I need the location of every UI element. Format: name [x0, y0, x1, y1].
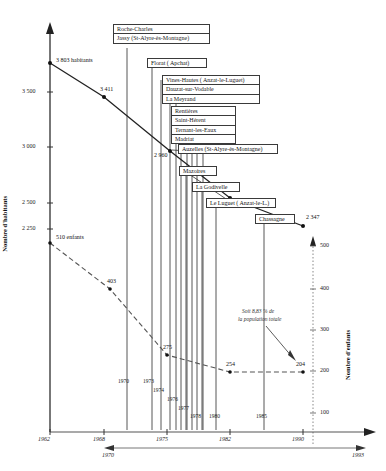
callout-auzelles[interactable]: Auzelles (St-Alyre-ès-Montagne) — [178, 144, 278, 154]
x-tick-1975: 1975 — [156, 436, 168, 442]
x-tick-1990: 1990 — [292, 436, 304, 442]
x-tick-1968: 1968 — [93, 436, 105, 442]
event-year-1976: 1976 — [167, 397, 178, 403]
point-label-habitants-1975: 2 960 — [154, 152, 168, 158]
event-year-1977: 1977 — [178, 406, 189, 412]
annotation-leader — [266, 326, 296, 361]
y-right-tick-200: 200 — [320, 367, 329, 373]
point-label-enfants-1982: 254 — [226, 361, 235, 367]
x2-start-1970: 1970 — [102, 452, 114, 458]
y-axis-right — [310, 236, 316, 445]
x-tick-1982: 1982 — [219, 436, 231, 442]
x-axis-primary — [50, 428, 376, 436]
point-label-enfants-1975: 275 — [163, 344, 172, 350]
x2-end-1993: 1993 — [352, 452, 364, 458]
y-right-tick-300: 300 — [320, 326, 329, 332]
annotation-line2: la population totale — [238, 316, 281, 323]
x-axis-secondary — [104, 445, 366, 451]
y-tick-3000: 3 000 — [22, 143, 36, 149]
point-label-habitants-1968: 3 411 — [100, 86, 113, 92]
y-tick-2500: 2 500 — [22, 199, 36, 205]
event-year-1974: 1974 — [153, 388, 164, 394]
callout-saint-herent[interactable]: Saint-Hérent — [172, 116, 235, 125]
callout-jassy[interactable]: Jassy (St-Alyre-ès-Montagne) — [114, 34, 209, 42]
callout-chassagne[interactable]: Chassagne — [255, 214, 295, 224]
event-year-1985: 1985 — [256, 414, 267, 420]
callout-dauzat-sur-vodable[interactable]: Dauzat-sur-Vodable — [163, 85, 259, 94]
y-axis-left — [46, 22, 54, 432]
y-right-tick-500: 500 — [320, 242, 329, 248]
event-year-1973: 1973 — [143, 379, 154, 385]
point-label-enfants-1962: 510 enfants — [56, 234, 84, 240]
callout-group-roche-jassy[interactable]: Roche-Charles Jassy (St-Alyre-ès-Montagn… — [113, 24, 210, 44]
callout-vines-hautes[interactable]: Vines-Hautes ( Anzat-le-Luguet) — [163, 76, 259, 85]
callout-la-godivelle[interactable]: La Godivelle — [192, 182, 240, 192]
chart-canvas: Nombre d'habitants 3 500 3 000 2 500 2 2… — [0, 0, 386, 471]
callout-florat[interactable]: Florat ( Apchat) — [147, 58, 207, 68]
y-tick-2250: 2 250 — [22, 225, 36, 231]
point-label-enfants-1970: 403 — [107, 278, 116, 284]
callout-ternant-les-eaux[interactable]: Ternant-les-Eaux — [172, 126, 235, 135]
callout-le-luguet[interactable]: Le Luguet ( Anzat-le-L.) — [206, 198, 276, 208]
callout-group-vines-dauzat-meyrand[interactable]: Vines-Hautes ( Anzat-le-Luguet) Dauzat-s… — [162, 75, 260, 104]
event-year-1980: 1980 — [209, 414, 220, 420]
point-label-enfants-1990: 204 — [296, 361, 305, 367]
y-right-tick-100: 100 — [320, 409, 329, 415]
event-year-1970: 1970 — [118, 379, 129, 385]
callout-madriat[interactable]: Madriat — [172, 135, 235, 143]
callout-group-rentieres-madriat[interactable]: Rentières Saint-Hérent Ternant-les-Eaux … — [171, 106, 236, 144]
x-tick-1962: 1962 — [38, 436, 50, 442]
event-year-1978: 1978 — [190, 414, 201, 420]
point-label-habitants-1990: 2 347 — [306, 214, 320, 220]
point-label-habitants-1962: 3 803 habitants — [56, 57, 93, 63]
y-right-tick-400: 400 — [320, 285, 329, 291]
callout-rentieres[interactable]: Rentières — [172, 107, 235, 116]
y-tick-3500: 3 500 — [22, 88, 36, 94]
callout-roche-charles[interactable]: Roche-Charles — [114, 25, 209, 34]
y-axis-left-title: Nombre d'habitants — [2, 196, 9, 252]
y-axis-right-title: Nombre d'enfants — [345, 330, 352, 380]
callout-mazoires[interactable]: Mazoires — [179, 166, 217, 176]
callout-la-meyrand[interactable]: La Meyrand — [163, 95, 259, 103]
annotation-line1: Soit 8,83 % de — [242, 308, 274, 315]
